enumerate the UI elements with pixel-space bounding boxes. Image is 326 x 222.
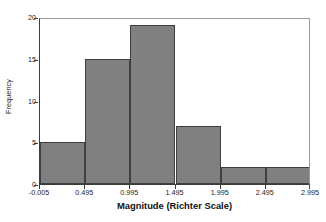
y-axis-tick-mark xyxy=(34,143,38,144)
x-axis-tick-label: -0.005 xyxy=(29,189,49,196)
y-axis-tick-mark xyxy=(34,102,38,103)
y-axis-tick-label: 20 xyxy=(14,14,36,21)
y-axis-title-label: Frequency xyxy=(4,79,13,114)
histogram-bar xyxy=(266,167,310,184)
x-axis-tick-label: 1.995 xyxy=(211,189,229,196)
y-axis-tick-mark xyxy=(34,60,38,61)
histogram-figure: Frequency 05101520 -0.0050.4950.9951.495… xyxy=(0,0,326,222)
x-axis-tick-labels: -0.0050.4950.9951.4951.9952.4952.995 xyxy=(39,189,310,199)
y-axis-tick-label: 10 xyxy=(14,98,36,105)
histogram-bar xyxy=(130,25,175,184)
bar-series xyxy=(40,19,309,184)
x-axis-tick-label: 2.495 xyxy=(256,189,274,196)
y-axis-tick-label: 15 xyxy=(14,56,36,63)
histogram-bar xyxy=(85,59,130,184)
x-axis-tick-label: 1.495 xyxy=(166,189,184,196)
x-axis-title: Magnitude (Richter Scale) xyxy=(39,200,310,211)
x-axis-tick-label: 2.995 xyxy=(301,189,319,196)
y-axis-tick-mark xyxy=(34,18,38,19)
histogram-bar xyxy=(176,126,221,184)
histogram-bar xyxy=(40,142,85,184)
y-axis-tick-label: 5 xyxy=(14,140,36,147)
y-axis-tick-mark xyxy=(34,185,38,186)
x-axis-tick-label: 0.495 xyxy=(75,189,93,196)
x-axis-tick-label: 0.995 xyxy=(120,189,138,196)
histogram-bar xyxy=(221,167,266,184)
plot-area xyxy=(39,18,310,185)
